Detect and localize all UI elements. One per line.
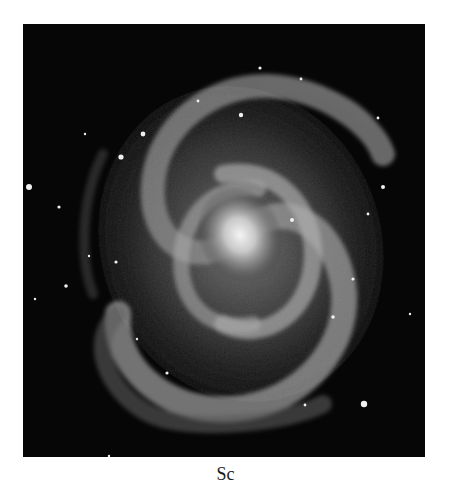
galaxy-photo [23, 24, 425, 457]
galaxy-figure: Sc [0, 0, 451, 500]
spiral-galaxy-image [23, 24, 425, 457]
galaxy-type-caption: Sc [0, 464, 451, 485]
